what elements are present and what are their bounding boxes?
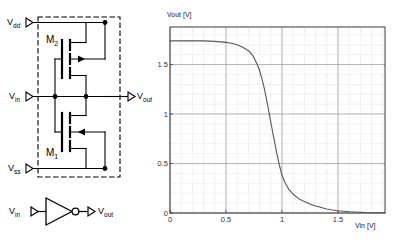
inverter-label-vout: Vout xyxy=(98,207,113,218)
label-vin: Vin xyxy=(9,92,20,103)
svg-text:0.5: 0.5 xyxy=(221,215,231,224)
label-vss: Vss xyxy=(8,164,21,175)
inverter-svg xyxy=(0,193,155,247)
figure-root: Vdd Vin Vss Vout M2 M1 xyxy=(0,0,402,247)
label-m1: M1 xyxy=(46,148,58,162)
svg-text:1.5: 1.5 xyxy=(158,60,168,69)
node-dot-vdd xyxy=(103,20,108,25)
inverter-bubble xyxy=(72,208,79,215)
m2-bulk-arrow xyxy=(78,56,85,63)
vout-pin xyxy=(128,92,135,101)
node-dot-vin xyxy=(53,94,58,99)
vdd-pin xyxy=(26,18,33,27)
vtc-plot: 00.511.500.511.5 Vout [V] Vin [V] xyxy=(155,0,402,247)
vss-pin xyxy=(26,164,33,173)
svg-text:0: 0 xyxy=(168,215,172,224)
svg-text:0: 0 xyxy=(164,209,168,218)
node-dot-vss xyxy=(103,166,108,171)
x-axis-label: Vin [V] xyxy=(355,222,376,230)
vin-pin xyxy=(26,92,33,101)
schematic-svg xyxy=(0,0,155,195)
svg-text:1: 1 xyxy=(280,215,284,224)
svg-text:1.5: 1.5 xyxy=(333,215,343,224)
vtc-plot-svg: 00.511.500.511.5 xyxy=(155,0,402,247)
m1-bulk-arrow xyxy=(78,129,85,136)
label-vout: Vout xyxy=(137,92,152,103)
inverter-label-vin: Vin xyxy=(9,207,20,218)
svg-text:1: 1 xyxy=(164,110,168,119)
svg-text:0.5: 0.5 xyxy=(158,159,168,168)
y-axis-label: Vout [V] xyxy=(167,11,192,19)
inverter-symbol: Vin Vout xyxy=(0,193,155,247)
label-m2: M2 xyxy=(46,35,58,49)
inverter-triangle xyxy=(46,198,72,225)
node-dot-vout xyxy=(84,94,89,99)
inverter-input-pin xyxy=(31,207,38,216)
label-vdd: Vdd xyxy=(7,18,20,29)
inverter-output-pin xyxy=(88,207,95,216)
